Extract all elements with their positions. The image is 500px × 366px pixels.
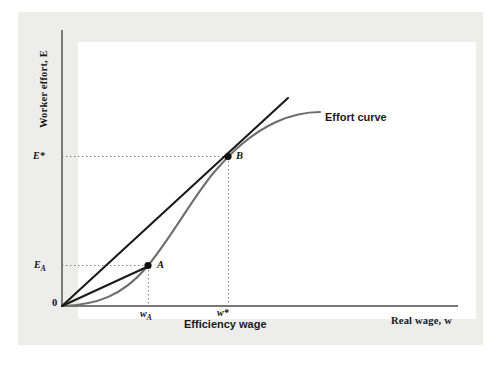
point-label-a: A [157,259,164,270]
figure-screenshot: Worker effort, E Real wage, w 0 E* EA wA… [0,0,500,366]
point-marker-b [224,153,231,160]
y-axis-title: Worker effort, E [38,50,49,128]
x-tick-label-w-star: w* [217,307,229,318]
chart-graphics [0,0,500,366]
origin-label: 0 [52,297,57,308]
x-tick-label-w-a: wA [140,308,152,322]
ray-through-a [62,266,149,306]
point-marker-a [144,262,151,269]
effort-curve [62,112,320,306]
y-tick-label-e-star: E* [33,150,45,161]
y-tick-label-e-a: EA [34,259,46,273]
effort-curve-label: Effort curve [325,111,387,123]
x-tick-w-a-base: w [140,308,147,319]
tangent-ray-through-b [62,98,288,306]
x-tick-w-a-subscript: A [147,313,152,322]
y-tick-e-a-subscript: A [41,264,46,273]
y-tick-e-a-base: E [34,259,41,270]
x-axis-title: Real wage, w [391,315,452,326]
point-label-b: B [236,150,243,161]
efficiency-wage-label: Efficiency wage [184,318,267,330]
